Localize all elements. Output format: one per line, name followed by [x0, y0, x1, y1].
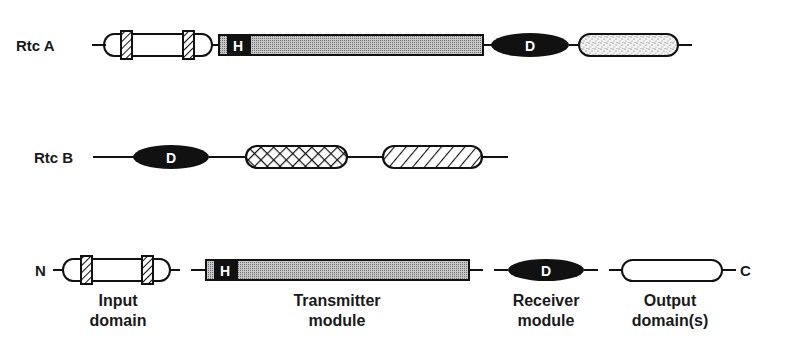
input-domain: [63, 256, 170, 284]
receiver-module: D: [133, 145, 209, 169]
h-box-label: H: [220, 263, 230, 279]
caption-receiver-line2: module: [518, 312, 575, 329]
row-rtc-a: Rtc A H D: [16, 31, 692, 59]
output-domain-hatched: [383, 146, 482, 168]
row-generic: N H D C: [35, 256, 751, 284]
output-domain-crosshatched: [246, 146, 347, 168]
output-domain: [622, 260, 722, 281]
row-label-rtc-a: Rtc A: [16, 37, 55, 54]
transmembrane-segment-icon: [142, 256, 153, 284]
d-label: D: [541, 263, 551, 279]
receiver-module: D: [508, 259, 584, 281]
transmembrane-segment-icon: [183, 31, 194, 59]
caption-input-line2: domain: [90, 312, 147, 329]
output-domain: [579, 34, 678, 56]
d-label: D: [166, 150, 176, 166]
domain-architecture-diagram: Rtc A H D Rtc B: [0, 0, 789, 345]
caption-transmitter-line2: module: [309, 312, 366, 329]
caption-receiver-line1: Receiver: [513, 292, 580, 309]
receiver-module: D: [491, 33, 569, 57]
row-rtc-b: Rtc B D: [34, 145, 508, 169]
row-label-rtc-b: Rtc B: [34, 149, 73, 166]
d-label: D: [525, 38, 535, 54]
c-terminus-label: C: [740, 262, 751, 279]
transmembrane-segment-icon: [121, 31, 132, 59]
transmembrane-segment-icon: [81, 256, 92, 284]
caption-input-line1: Input: [98, 292, 138, 309]
n-terminus-label: N: [35, 262, 46, 279]
captions: Input domain Transmitter module Receiver…: [90, 292, 709, 329]
input-domain: [104, 31, 212, 59]
h-box-label: H: [233, 38, 243, 54]
transmitter-module: H: [219, 35, 483, 55]
transmitter-module: H: [206, 260, 469, 280]
caption-output-line1: Output: [644, 292, 697, 309]
caption-transmitter-line1: Transmitter: [293, 292, 380, 309]
caption-output-line2: domain(s): [632, 312, 708, 329]
